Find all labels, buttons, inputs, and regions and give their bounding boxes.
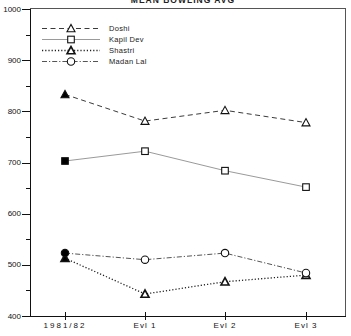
square-marker-icon (62, 158, 69, 165)
series-madan-lal (61, 249, 309, 276)
x-tick-label: Evl 1 (134, 321, 157, 330)
y-tick-label: 900 (0, 56, 21, 65)
circle-marker-icon (221, 249, 228, 256)
series-shastri (61, 254, 310, 297)
chart-screenshot: MEAN BOWLING AVG 1000900800700600500400 … (0, 0, 351, 336)
triangle-marker-icon (221, 278, 229, 285)
y-tick-label: 700 (0, 158, 21, 167)
legend-key (42, 56, 100, 67)
y-tick-mark (22, 265, 30, 266)
y-tick-mark (22, 111, 30, 112)
legend-item-label: Doshi (109, 24, 130, 33)
x-tick-label: 1981/82 (44, 321, 87, 330)
legend-item: Kapil Dev (42, 34, 147, 45)
legend-item-label: Madan Lal (109, 57, 147, 66)
x-axis (30, 316, 346, 317)
series-line (65, 253, 306, 273)
y-tick-label: 1000 (0, 5, 21, 14)
y-tick-mark (22, 163, 30, 164)
square-marker-icon (222, 167, 229, 174)
series-line (65, 258, 306, 294)
square-marker-icon (68, 36, 75, 43)
legend-item-label: Shastri (109, 46, 134, 55)
legend-item: Madan Lal (42, 56, 147, 67)
circle-marker-icon (141, 256, 148, 263)
square-marker-icon (142, 148, 149, 155)
circle-marker-icon (67, 58, 74, 65)
circle-marker-icon (61, 249, 68, 256)
circle-marker-icon (302, 269, 309, 276)
plot-border-right (345, 8, 346, 317)
legend: DoshiKapil DevShastriMadan Lal (42, 23, 147, 67)
y-tick-label: 800 (0, 107, 21, 116)
series-line (65, 151, 306, 187)
triangle-marker-icon (67, 47, 75, 54)
legend-key (42, 34, 100, 45)
y-tick-mark (22, 60, 30, 61)
x-tick-label: Evl 2 (214, 321, 237, 330)
triangle-marker-icon (221, 106, 229, 113)
triangle-marker-icon (141, 290, 149, 297)
y-tick-mark (22, 316, 30, 317)
y-tick-label: 500 (0, 260, 21, 269)
legend-item: Shastri (42, 45, 147, 56)
triangle-marker-icon (61, 90, 69, 97)
legend-item-label: Kapil Dev (109, 35, 144, 44)
square-marker-icon (303, 184, 310, 191)
legend-key (42, 23, 100, 34)
triangle-marker-icon (302, 119, 310, 126)
y-tick-mark (22, 214, 30, 215)
y-tick-label: 600 (0, 209, 21, 218)
y-tick-label: 400 (0, 312, 21, 321)
legend-item: Doshi (42, 23, 147, 34)
series-kapil-dev (62, 148, 310, 191)
x-tick-label: Evl 3 (295, 321, 318, 330)
series-line (65, 94, 306, 122)
legend-key (42, 45, 100, 56)
series-doshi (61, 90, 310, 126)
y-tick-mark (22, 9, 30, 10)
chart-title: MEAN BOWLING AVG (131, 0, 235, 5)
